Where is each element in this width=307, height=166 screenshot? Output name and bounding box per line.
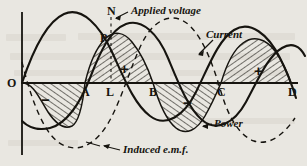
construction-point-n: N bbox=[107, 5, 116, 17]
power-lobe-positive-left bbox=[85, 33, 153, 83]
sign-negative-region-left: − bbox=[41, 92, 50, 107]
axis-marker-b: B bbox=[149, 86, 157, 98]
label-current: Current bbox=[206, 29, 242, 40]
label-induced-emf: Induced e.m.f. bbox=[123, 144, 188, 155]
leader-induced-emf bbox=[86, 142, 120, 150]
construction-point-p: P bbox=[100, 32, 107, 44]
figure-canvas: O A L B C D N P Applied voltage Current … bbox=[0, 0, 307, 166]
leader-applied-voltage bbox=[115, 12, 128, 21]
waveform-plot bbox=[0, 0, 307, 166]
axis-marker-d: D bbox=[288, 86, 297, 98]
sign-positive-region-right: + bbox=[254, 63, 263, 78]
leader-power bbox=[202, 124, 212, 130]
sign-negative-region-right: − bbox=[183, 95, 192, 110]
axis-origin-label: O bbox=[7, 77, 16, 89]
sign-positive-region-left: + bbox=[120, 61, 129, 76]
leader-current bbox=[198, 40, 213, 56]
label-applied-voltage: Applied voltage bbox=[131, 5, 201, 16]
axis-marker-c: C bbox=[217, 86, 226, 98]
axis-marker-l: L bbox=[106, 86, 114, 98]
axis-marker-a: A bbox=[81, 86, 90, 98]
label-power: Power bbox=[214, 118, 243, 129]
